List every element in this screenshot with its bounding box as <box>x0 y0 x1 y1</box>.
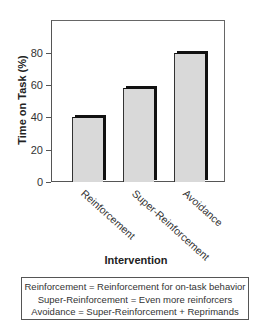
y-tick <box>46 182 51 183</box>
legend-box: Reinforcement = Reinforcement for on-tas… <box>21 277 249 320</box>
bar-reinforcement <box>72 117 103 182</box>
legend-line-super-reinforcement: Super-Reinforcement = Even more reinforc… <box>22 294 248 307</box>
y-tick-label: 80 <box>21 47 43 59</box>
y-axis-title: Time on Task (%) <box>16 55 28 144</box>
y-tick-label: 0 <box>21 176 43 188</box>
y-tick-label: 60 <box>21 79 43 91</box>
x-tick-label: Avoidance <box>181 187 225 229</box>
y-tick <box>46 117 51 118</box>
legend-line-avoidance: Avoidance = Super-Reinforcement + Reprim… <box>22 306 248 319</box>
legend-line-reinforcement: Reinforcement = Reinforcement for on-tas… <box>22 281 248 294</box>
y-tick <box>46 150 51 151</box>
y-tick-label: 40 <box>21 111 43 123</box>
y-tick-label: 20 <box>21 144 43 156</box>
x-axis-title: Intervention <box>0 254 265 266</box>
bar-avoidance <box>174 53 205 182</box>
y-tick <box>46 53 51 54</box>
y-tick <box>46 85 51 86</box>
bar-chart: Time on Task (%) 020406080 Reinforcement… <box>0 0 265 323</box>
bar-super-reinforcement <box>123 88 154 182</box>
